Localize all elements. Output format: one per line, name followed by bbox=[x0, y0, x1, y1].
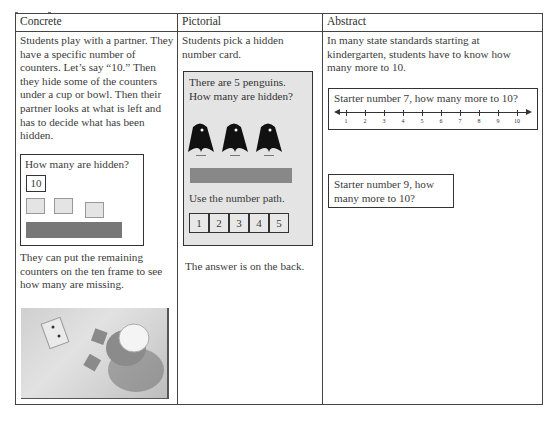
abstract-intro: In many state standards starting at kind… bbox=[327, 34, 537, 75]
path-label: Use the number path. bbox=[189, 192, 309, 206]
concrete-followup: They can put the remaining counters on t… bbox=[20, 251, 174, 292]
card2-question: Starter number 9, how many more to 10? bbox=[334, 178, 452, 205]
penguin-card: There are 5 penguins. How many are hidde… bbox=[183, 71, 313, 246]
penguin-question: There are 5 penguins. How many are hidde… bbox=[189, 76, 299, 103]
arrow-right-icon bbox=[526, 109, 532, 115]
arrow-left-icon bbox=[334, 109, 340, 115]
path-cell: 3 bbox=[229, 213, 249, 233]
number-path: 1 2 3 4 5 bbox=[189, 213, 294, 233]
header-concrete: Concrete bbox=[20, 15, 62, 27]
penguins-icon bbox=[188, 122, 298, 162]
header-pictorial: Pictorial bbox=[182, 15, 221, 27]
hidden-bar bbox=[190, 168, 292, 183]
column-divider bbox=[322, 14, 323, 404]
path-cell: 1 bbox=[189, 213, 209, 233]
column-divider bbox=[177, 14, 178, 404]
number-line: 1 2 3 4 5 6 7 8 9 10 bbox=[334, 107, 532, 127]
header-abstract: Abstract bbox=[327, 15, 366, 27]
card1-question: Starter number 7, how many more to 10? bbox=[334, 92, 534, 106]
pictorial-intro: Students pick a hidden number card. bbox=[182, 34, 320, 61]
concrete-intro: Students play with a partner. They have … bbox=[20, 34, 174, 143]
path-cell: 4 bbox=[249, 213, 269, 233]
counter bbox=[26, 198, 45, 214]
starter-nine-card: Starter number 9, how many more to 10? bbox=[328, 174, 454, 208]
number-line-card: Starter number 7, how many more to 10? 1… bbox=[328, 88, 538, 130]
counters-photo bbox=[21, 308, 169, 399]
pictorial-footer: The answer is on the back. bbox=[185, 260, 323, 274]
cpa-table: Concrete Pictorial Abstract Students pla… bbox=[15, 13, 543, 405]
path-cell: 5 bbox=[269, 213, 289, 233]
hidden-counters-card: How many are hidden? 10 bbox=[20, 154, 144, 246]
number-box: 10 bbox=[26, 175, 46, 192]
hidden-bar bbox=[26, 222, 122, 238]
path-cell: 2 bbox=[209, 213, 229, 233]
photo-illustration bbox=[21, 308, 167, 398]
cut-off-caption bbox=[15, 0, 165, 4]
counter bbox=[54, 198, 73, 214]
counter bbox=[85, 202, 104, 218]
header-divider bbox=[16, 31, 542, 32]
card-question: How many are hidden? bbox=[25, 158, 145, 172]
